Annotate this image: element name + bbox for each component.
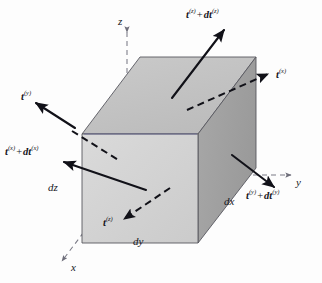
stress-cube-figure: z y x dz dy dx t(z)+dt(z) t(x) t(y) t(x)… <box>0 0 322 283</box>
diagram-canvas <box>0 0 322 283</box>
cube-body <box>82 57 256 243</box>
arrow-t-y <box>36 103 75 128</box>
